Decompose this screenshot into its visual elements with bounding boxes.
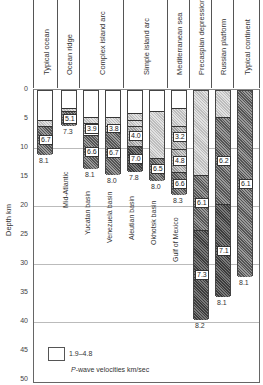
velocity-label: 3.2 [173, 132, 187, 142]
header-label: Mediterranean sea [175, 12, 184, 75]
velocity-label: 7.0 [129, 154, 143, 164]
velocity-label: 5.1 [63, 114, 77, 124]
velocity-label: 6.7 [39, 135, 53, 145]
layer [194, 91, 208, 175]
y-axis-label: Depth km [4, 204, 13, 236]
crustal-section-chart: Typical ocean Ocean ridge Complex island… [0, 0, 263, 385]
legend-swatch [48, 347, 65, 361]
legend-label: 1.9–4.8 [69, 350, 92, 357]
header-simple-island-arc: Simple island arc [123, 0, 168, 88]
velocity-label: 6.5 [151, 164, 165, 174]
header-label: Complex island arc [98, 11, 107, 75]
header-precaspian-depression: Precaspian depression [189, 0, 212, 88]
column-gulf-of-mexico: 3.24.86.6 [171, 90, 187, 194]
y-tick: 30 [6, 259, 28, 266]
moho-velocity: 8.0 [107, 177, 117, 184]
layer [150, 111, 164, 157]
moho-velocity: 7.3 [63, 128, 73, 135]
velocity-label: 7.1 [217, 246, 231, 256]
header-ocean-ridge: Ocean ridge [57, 0, 80, 88]
moho-velocity: 8.1 [217, 299, 227, 306]
moho-velocity: 8.1 [239, 279, 249, 286]
column-venezuela-basin: 3.86.7 [105, 90, 121, 174]
velocity-label: 6.6 [173, 179, 187, 189]
y-tick: 15 [6, 172, 28, 179]
sublabel-gulf-of-mexico: Gulf of Mexico [172, 217, 179, 262]
sublabel-mid-atlantic: Mid-Atlantic [62, 171, 69, 208]
moho-velocity: 8.2 [195, 322, 205, 329]
sublabel-aleutian-basin: Aleutian basin [128, 196, 135, 240]
header-complex-island-arc: Complex island arc [79, 0, 124, 88]
y-tick: 40 [6, 317, 28, 324]
velocity-label: 3.9 [85, 124, 99, 134]
header-typical-continent: Typical continent [233, 0, 260, 88]
layer [38, 91, 52, 120]
header-label: Russian platform [219, 19, 228, 75]
moho-velocity: 8.1 [39, 157, 49, 164]
header-label: Simple island arc [142, 18, 151, 75]
column-okhotsk-basin: 6.5 [149, 90, 165, 180]
header-label: Typical continent [242, 19, 251, 75]
moho-velocity: 8.0 [151, 183, 161, 190]
velocity-label: 6.2 [217, 156, 231, 166]
header-label: Typical ocean [42, 29, 51, 75]
layer [128, 91, 142, 113]
layer [128, 113, 142, 120]
y-tick: 35 [6, 288, 28, 295]
moho-velocity: 8.3 [173, 197, 183, 204]
column-aleutian-basin: 4.07.0 [127, 90, 143, 171]
header-typical-ocean: Typical ocean [33, 0, 58, 88]
velocity-label: 6.1 [195, 198, 209, 208]
y-tick: 45 [6, 346, 28, 353]
moho-velocity: 8.1 [85, 171, 95, 178]
layer [106, 91, 120, 117]
moho-velocity: 7.8 [129, 174, 139, 181]
y-tick: 5 [6, 114, 28, 121]
gridline [34, 322, 259, 323]
column-russian-platform: 6.27.1 [215, 90, 231, 296]
sublabel-okhotsk-basin: Okhotsk basin [150, 201, 157, 245]
sublabel-venezuela-basin: Venezuela basin [106, 192, 113, 243]
sublabel-yucatan-basin: Yucatan basin [84, 191, 91, 235]
velocity-label: 6.7 [107, 148, 121, 158]
column-typical-continent: 6.1 [237, 90, 253, 276]
column-typical-ocean: 6.7 [37, 90, 53, 154]
layer [172, 108, 186, 125]
velocity-label: 4.0 [129, 131, 143, 141]
y-tick: 0 [6, 85, 28, 92]
column-yucatan-basin: 3.96.6 [83, 90, 99, 168]
header-mediterranean-sea: Mediterranean sea [167, 0, 190, 88]
layer [84, 91, 98, 117]
velocity-label: 6.1 [239, 179, 253, 189]
velocity-label: 4.8 [173, 156, 187, 166]
header-label: Precaspian depression [197, 0, 206, 75]
velocity-label: 7.3 [195, 270, 209, 280]
header-label: Ocean ridge [65, 34, 74, 75]
column-precaspian-depression: 6.17.3 [193, 90, 209, 319]
caption-text: -wave velocities km/sec [76, 366, 150, 373]
column-mid-atlantic: 5.1 [61, 90, 77, 125]
y-tick: 10 [6, 143, 28, 150]
layer [216, 91, 230, 117]
velocity-label: 6.6 [85, 147, 99, 157]
header-russian-platform: Russian platform [211, 0, 234, 88]
layer [150, 91, 164, 111]
legend-caption: P-wave velocities km/sec [71, 366, 149, 373]
layer [172, 91, 186, 108]
y-tick: 50 [6, 375, 28, 382]
layer [62, 91, 76, 108]
